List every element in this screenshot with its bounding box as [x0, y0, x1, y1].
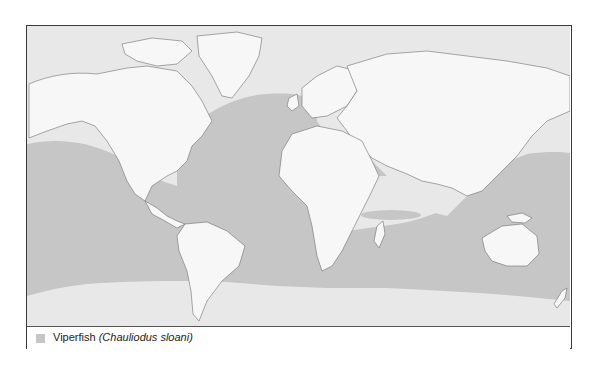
legend-swatch: [36, 334, 45, 343]
world-map: [27, 26, 570, 326]
map-frame: Viperfish (Chauliodus sloani): [26, 25, 572, 349]
legend-scientific-name: (Chauliodus sloani): [99, 331, 193, 343]
legend-label: Viperfish (Chauliodus sloani): [53, 331, 193, 343]
legend-common-name: Viperfish: [53, 331, 96, 343]
legend: Viperfish (Chauliodus sloani): [27, 326, 570, 349]
range-area-indian-band: [361, 210, 421, 220]
